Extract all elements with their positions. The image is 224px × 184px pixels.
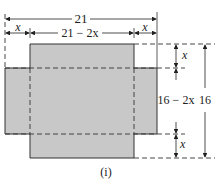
- label-x-bottom: x: [179, 137, 186, 151]
- box-net-diagram: 21 x 21 − 2x x x 16 − 2x 16 x (i): [0, 0, 224, 184]
- label-21-2x: 21 − 2x: [62, 26, 99, 40]
- caption: (i): [100, 165, 111, 179]
- label-21: 21: [75, 11, 88, 26]
- label-x-right: x: [141, 20, 148, 34]
- label-16-2x: 16 − 2x: [158, 93, 195, 107]
- label-x-top: x: [181, 48, 188, 62]
- label-16: 16: [199, 93, 211, 107]
- label-x-left: x: [14, 20, 21, 34]
